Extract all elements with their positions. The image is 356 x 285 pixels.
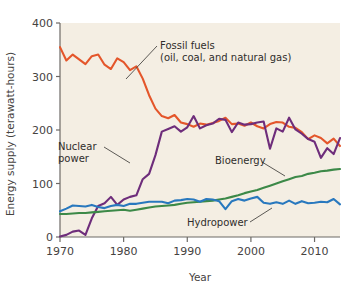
- nuclear-power-label-line1: Nuclear: [58, 141, 97, 152]
- y-tick-label: 100: [32, 178, 53, 191]
- y-tick-label: 300: [32, 71, 53, 84]
- bioenergy-label: Bioenergy: [215, 155, 266, 166]
- y-tick-label: 200: [32, 124, 53, 137]
- x-tick-label: 1970: [46, 245, 74, 258]
- y-axis-title: Energy supply (terawatt-hours): [4, 52, 16, 216]
- fossil-fuels-label-line1: Fossil fuels: [160, 40, 215, 51]
- x-tick-label: 1980: [110, 245, 138, 258]
- y-tick-label: 0: [46, 231, 53, 244]
- x-axis-title: Year: [188, 271, 212, 283]
- chart-figure: 0100200300400 19701980199020002010 Energ…: [0, 0, 356, 285]
- energy-supply-line-chart: 0100200300400 19701980199020002010 Energ…: [0, 0, 356, 285]
- y-tick-label: 400: [32, 17, 53, 30]
- hydropower-label: Hydropower: [187, 217, 249, 228]
- fossil-fuels-label-line2: (oil, coal, and natural gas): [160, 52, 291, 63]
- x-tick-label: 2000: [237, 245, 265, 258]
- x-tick-label: 2010: [301, 245, 329, 258]
- x-tick-label: 1990: [173, 245, 201, 258]
- nuclear-power-label-line2: power: [58, 153, 90, 164]
